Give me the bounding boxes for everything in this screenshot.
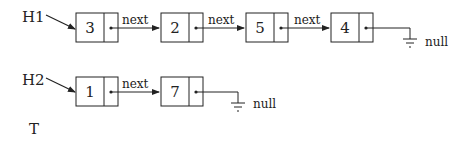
node-value: 2 [170,19,180,37]
head-label-h1: H1 [22,8,45,26]
head-pointer-h2 [46,78,75,92]
node-value: 4 [340,19,350,37]
null-ground-icon [366,28,417,47]
node-value: 5 [255,19,265,37]
next-label: next [122,77,149,91]
node-value: 1 [85,83,95,101]
linked-list-diagram: H1 3 next 2 next 5 next 4 null H2 [0,0,466,143]
head-label-h2: H2 [22,71,45,89]
label-t: T [29,120,39,138]
null-label: null [253,97,276,111]
null-label: null [425,35,448,49]
node-value: 7 [170,83,180,101]
next-label: next [208,13,235,27]
head-pointer-h1 [46,15,75,29]
node-value: 3 [85,19,95,37]
next-label: next [122,13,149,27]
next-label: next [294,13,321,27]
